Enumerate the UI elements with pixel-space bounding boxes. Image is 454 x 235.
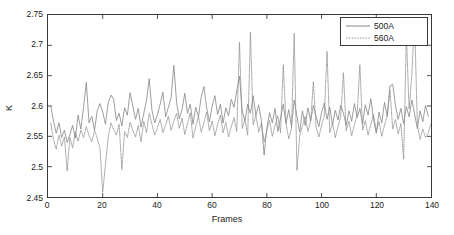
figure: 2.452.52.552.62.652.72.75 K 020406080100… <box>0 0 454 235</box>
x-tick-label: 60 <box>207 201 216 210</box>
x-tick-label: 0 <box>45 201 50 210</box>
y-tick-label: 2.7 <box>31 40 43 49</box>
x-axis-tick-labels: 020406080100120140 <box>0 201 454 213</box>
y-tick-label: 2.5 <box>31 163 43 172</box>
y-tick-label: 2.6 <box>31 102 43 111</box>
x-tick-label: 120 <box>370 201 384 210</box>
x-tick-label: 140 <box>425 201 439 210</box>
x-tick-label: 40 <box>152 201 161 210</box>
legend-swatch-solid-icon <box>345 21 371 31</box>
y-tick-label: 2.65 <box>26 71 43 80</box>
x-tick-label: 80 <box>262 201 271 210</box>
x-tick-label: 100 <box>315 201 329 210</box>
x-tick-label: 20 <box>97 201 106 210</box>
y-axis-label: K <box>4 93 14 123</box>
legend-label-0: 500A <box>374 21 394 31</box>
legend[interactable]: 500A 560A <box>340 17 428 46</box>
x-axis-label: Frames <box>0 214 454 224</box>
legend-item-0[interactable]: 500A <box>341 20 427 32</box>
series-line-500A <box>51 65 429 155</box>
legend-swatch-dotted-icon <box>345 33 371 43</box>
y-tick-label: 2.55 <box>26 132 43 141</box>
legend-item-1[interactable]: 560A <box>341 32 427 44</box>
legend-label-1: 560A <box>374 33 394 43</box>
y-tick-label: 2.75 <box>26 10 43 19</box>
